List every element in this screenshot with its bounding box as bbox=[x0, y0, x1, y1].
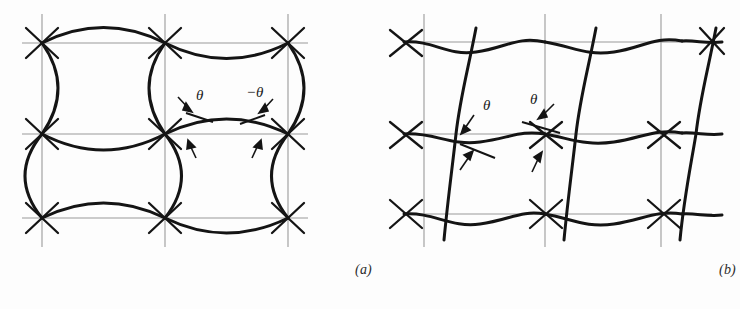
arc-top-left bbox=[42, 28, 165, 44]
arc-bot-right bbox=[165, 218, 288, 233]
arc-mid-right bbox=[165, 119, 288, 134]
theta-arrow-b1-head bbox=[461, 125, 470, 134]
theta-arrow-a2-head bbox=[187, 140, 195, 149]
caption-panel-b: (b) bbox=[364, 262, 740, 278]
node-whiskers-b bbox=[390, 28, 724, 228]
mtheta-arrow-a2-head bbox=[254, 140, 262, 149]
theta-arrow-b4-head bbox=[534, 152, 542, 162]
wave-top-right bbox=[682, 41, 722, 43]
reference-grid-a bbox=[22, 14, 308, 247]
angle-arrows-a bbox=[178, 97, 273, 158]
wave-mid-right bbox=[682, 133, 722, 135]
angle-label-minus-theta-a: −θ bbox=[246, 84, 264, 100]
wave-bot-right bbox=[682, 214, 722, 216]
theta-arrow-b2-head bbox=[464, 151, 473, 160]
arc-mid-left bbox=[42, 134, 165, 150]
wave-bot-left bbox=[404, 213, 545, 225]
arc-bot-left bbox=[42, 203, 165, 218]
angle-label-theta-a: θ bbox=[196, 87, 204, 103]
angle-label-theta-b1: θ bbox=[483, 97, 491, 113]
caption-b-text: (b) bbox=[719, 262, 736, 277]
arc-top-right bbox=[165, 43, 288, 59]
angle-label-theta-b2: θ bbox=[530, 91, 538, 107]
